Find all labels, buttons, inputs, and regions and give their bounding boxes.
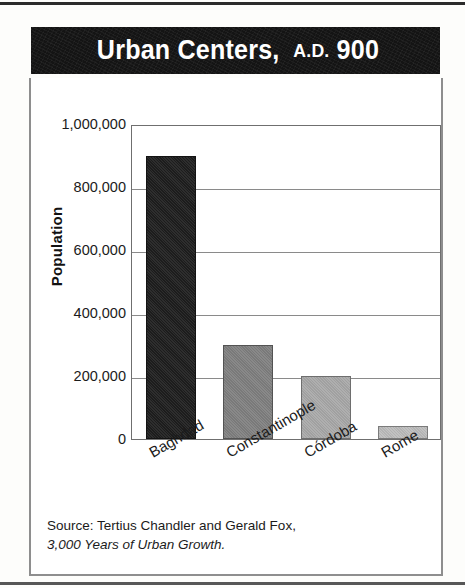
bar-chart: Population 0200,000400,000600,000800,000… [0,0,465,588]
y-axis-tick-labels: 0200,000400,000600,000800,0001,000,000 [30,125,126,440]
plot-area [131,125,441,440]
y-axis-tick-label: 800,000 [34,179,126,195]
bar-series [132,126,440,439]
source-line-1: Source: Tertius Chandler and Gerald Fox, [47,516,417,535]
source-note: Source: Tertius Chandler and Gerald Fox,… [47,516,417,554]
chart-title-era: A.D. [294,40,330,62]
y-axis-tick-label: 600,000 [34,242,126,258]
y-axis-tick-label: 400,000 [34,305,126,321]
y-axis-tick-label: 1,000,000 [34,116,126,132]
y-axis-tick-label: 0 [34,431,126,447]
source-line-2: 3,000 Years of Urban Growth. [47,535,417,554]
chart-title-year: 900 [337,35,379,66]
y-axis-tick-label: 200,000 [34,368,126,384]
bar-baghdad[interactable] [146,156,196,440]
chart-title-main: Urban Centers, [97,35,280,66]
x-axis-tick-labels: BaghdadConstantinopleCórdobaRome [131,440,441,502]
